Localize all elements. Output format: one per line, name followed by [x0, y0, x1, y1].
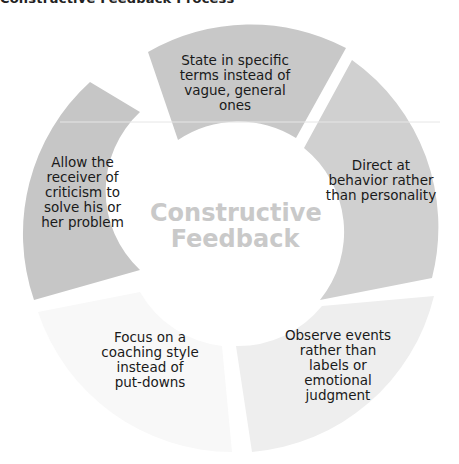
- segment-label-state: State in specific terms instead of vague…: [170, 53, 300, 113]
- segment-label-observe: Observe events rather than labels or emo…: [273, 328, 403, 403]
- segment-label-focus: Focus on a coaching style instead of put…: [85, 330, 215, 390]
- segment-label-allow: Allow the receiver of criticism to solve…: [30, 155, 135, 230]
- segment-label-direct: Direct at behavior rather than personali…: [320, 158, 442, 203]
- center-label: Constructive Feedback: [150, 200, 320, 252]
